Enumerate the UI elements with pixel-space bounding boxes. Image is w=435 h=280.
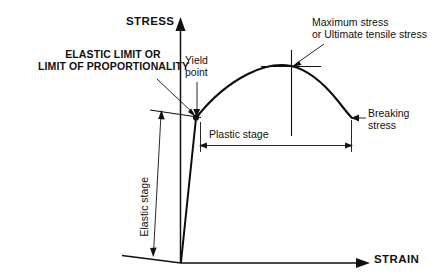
x-axis-arrowhead: [356, 258, 370, 268]
y-axis-arrowhead: [176, 17, 186, 31]
curve-group: [181, 65, 352, 262]
breaking-stress-leader-group: [351, 115, 366, 122]
ultimate-stress-crosshair: [261, 50, 321, 136]
max-stress-leader-group: [291, 44, 324, 67]
elastic-stage-dimension: [150, 110, 165, 257]
plastic-region-curve: [196, 65, 352, 118]
elastic-dim-bottom-arrowhead: [150, 248, 157, 257]
stress-strain-diagram: STRESS STRAIN ELASTIC LIMIT OR LIMIT OF …: [0, 0, 435, 280]
elastic-region-line: [181, 118, 196, 262]
x-axis-line: [122, 256, 360, 264]
y-axis-label: STRESS: [126, 16, 174, 28]
elastic-limit-annotation: ELASTIC LIMIT OR LIMIT OF PROPORTIONALIT…: [38, 49, 188, 72]
yield-point-annotation: Yield point: [185, 55, 208, 78]
maximum-stress-annotation: Maximum stress or Ultimate tensile stres…: [312, 17, 427, 40]
yield-point-leader-group: [193, 82, 200, 117]
breaking-stress-leader-arrowhead: [351, 115, 359, 122]
elastic-limit-leader-line: [157, 79, 193, 113]
max-stress-leader-line: [297, 44, 324, 63]
elastic-dim-bar: [154, 114, 162, 253]
x-axis-label: STRAIN: [374, 254, 419, 266]
elastic-stage-annotation: Elastic stage: [139, 177, 151, 237]
plastic-stage-annotation: Plastic stage: [209, 129, 269, 141]
breaking-stress-annotation: Breaking stress: [368, 108, 409, 131]
elastic-limit-leader-group: [157, 79, 196, 117]
